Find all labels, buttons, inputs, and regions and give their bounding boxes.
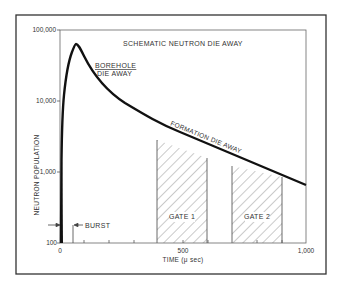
y-tick-100: 100 xyxy=(46,239,57,246)
gate-1-label: GATE 1 xyxy=(169,213,195,220)
burst-label: BURST xyxy=(85,222,111,229)
y-axis-label: NEUTRON POPULATION xyxy=(33,135,40,216)
gate-1-region xyxy=(157,140,207,243)
x-axis-label: TIME (μ sec) xyxy=(163,256,204,264)
neutron-die-away-chart: 100,000 10,000 1,000 100 0 500 1,000 TIM… xyxy=(0,0,340,288)
chart-title: SCHEMATIC NEUTRON DIE AWAY xyxy=(123,40,243,47)
y-tick-10000: 10,000 xyxy=(36,97,56,104)
x-tick-0: 0 xyxy=(58,247,62,254)
gate-2-region xyxy=(232,166,282,243)
borehole-label-line1: BOREHOLE xyxy=(95,62,136,69)
x-tick-500: 500 xyxy=(178,247,189,254)
gate-2-label: GATE 2 xyxy=(244,213,270,220)
y-tick-100000: 100,000 xyxy=(33,26,57,33)
y-axis-ticks xyxy=(57,30,60,243)
x-tick-1000: 1,000 xyxy=(298,247,315,254)
y-tick-1000: 1,000 xyxy=(40,168,57,175)
borehole-label-line2: DIE AWAY xyxy=(97,70,132,77)
